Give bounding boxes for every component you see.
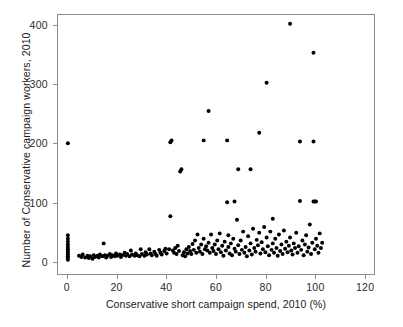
top-caption-fragment bbox=[4, 0, 264, 5]
y-tick-mark bbox=[53, 262, 57, 263]
y-tick-mark bbox=[53, 25, 57, 26]
x-tick-mark bbox=[67, 275, 68, 279]
scatter-plot-figure: 020406080100120 0100200300400 Conservati… bbox=[0, 0, 403, 327]
x-tick-label: 40 bbox=[160, 281, 172, 293]
x-tick-label: 60 bbox=[210, 281, 222, 293]
x-tick-label: 20 bbox=[110, 281, 122, 293]
data-points-layer bbox=[58, 15, 374, 274]
x-tick-mark bbox=[117, 275, 118, 279]
x-tick-label: 120 bbox=[356, 281, 374, 293]
x-tick-label: 100 bbox=[306, 281, 324, 293]
plot-area bbox=[57, 14, 375, 275]
x-axis-title: Conservative short campaign spend, 2010 … bbox=[57, 298, 375, 310]
y-tick-mark bbox=[53, 203, 57, 204]
x-tick-mark bbox=[216, 275, 217, 279]
x-tick-mark bbox=[166, 275, 167, 279]
x-tick-mark bbox=[315, 275, 316, 279]
y-tick-mark bbox=[53, 143, 57, 144]
x-tick-mark bbox=[266, 275, 267, 279]
y-tick-mark bbox=[53, 84, 57, 85]
x-tick-label: 0 bbox=[64, 281, 70, 293]
x-tick-label: 80 bbox=[260, 281, 272, 293]
x-tick-mark bbox=[365, 275, 366, 279]
y-axis-title: Number of Conservative campaign workers,… bbox=[20, 19, 32, 281]
